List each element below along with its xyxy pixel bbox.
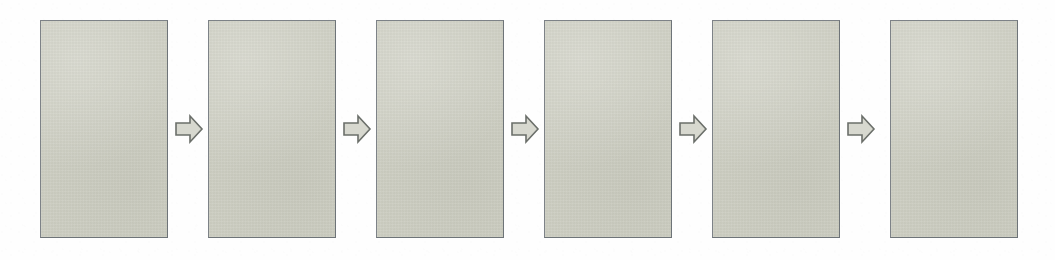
panel-ghost-text-5 bbox=[713, 21, 839, 237]
panel-ghost-text-2 bbox=[209, 21, 335, 237]
flow-connector-arrow-3 bbox=[510, 112, 540, 146]
panel-ghost-text-4 bbox=[545, 21, 671, 237]
flow-sequence bbox=[0, 0, 1055, 260]
process-flow-diagram bbox=[0, 0, 1055, 260]
flow-connector-arrow-1 bbox=[174, 112, 204, 146]
flow-stage-panel-5[interactable] bbox=[712, 20, 840, 238]
panel-ghost-text-6 bbox=[891, 21, 1017, 237]
flow-stage-panel-6[interactable] bbox=[890, 20, 1018, 238]
flow-stage-panel-1[interactable] bbox=[40, 20, 168, 238]
flow-connector-arrow-5 bbox=[846, 112, 876, 146]
flow-connector-arrow-4 bbox=[678, 112, 708, 146]
panel-ghost-text-3 bbox=[377, 21, 503, 237]
flow-stage-panel-2[interactable] bbox=[208, 20, 336, 238]
flow-stage-panel-4[interactable] bbox=[544, 20, 672, 238]
flow-connector-arrow-2 bbox=[342, 112, 372, 146]
flow-stage-panel-3[interactable] bbox=[376, 20, 504, 238]
